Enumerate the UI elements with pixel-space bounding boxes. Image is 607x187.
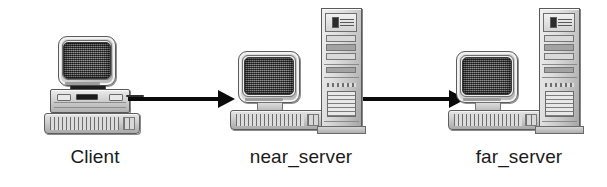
arrow-client-to-near-server: [128, 90, 236, 108]
far-server-monitor-chin: [463, 98, 500, 101]
client-keyboard: [44, 113, 140, 134]
node-far-server[interactable]: far_server: [446, 0, 592, 187]
far-server-tower-vents: [545, 83, 574, 87]
near-server-monitor-screen: [244, 57, 295, 95]
client-monitor: [58, 36, 116, 86]
far-server-tower-grille: [545, 91, 574, 117]
client-monitor-screen: [63, 42, 111, 79]
far-server-power-led: [550, 17, 557, 28]
near-server-keyboard-keys: [236, 114, 304, 127]
near-server-tower-vents: [327, 83, 356, 87]
far-server-keyboard-keys: [454, 114, 522, 127]
far-server-tower-case: [539, 8, 580, 128]
near-server-tower-divider-3: [324, 121, 359, 122]
client-case-seam-upper: [54, 102, 126, 103]
far-server-tower-divider-3: [542, 121, 577, 122]
far-server-bay-3: [544, 53, 574, 60]
near-server-tower-top-label: [340, 17, 354, 26]
near-server-tower-base: [317, 126, 366, 134]
near-server-tower-divider-1: [324, 64, 359, 65]
far-server-tower-base: [535, 126, 584, 134]
near-server-bay-4: [326, 67, 356, 73]
far-server-bay-1: [544, 35, 574, 42]
client-keyboard-numpad: [123, 117, 135, 130]
client-desktop-case: [50, 89, 130, 113]
arrow-shaft-2: [363, 97, 451, 101]
far-server-monitor-screen: [462, 57, 513, 95]
far-server-keyboard: [448, 110, 542, 130]
far-server-bay-4: [544, 67, 574, 73]
client-case-drive-slot: [109, 94, 123, 101]
label-client: Client: [22, 146, 168, 168]
far-server-tower-divider-2: [542, 77, 577, 78]
near-server-bay-2: [326, 44, 356, 51]
near-server-bay-3: [326, 53, 356, 60]
client-case-power-slot: [57, 94, 71, 101]
near-server-tower-divider-2: [324, 77, 359, 78]
near-server-tower-grille: [327, 91, 356, 117]
near-server-monitor-chin: [245, 98, 282, 101]
near-server-keyboard: [230, 110, 324, 130]
far-server-monitor: [456, 51, 518, 103]
client-case-seam-lower: [54, 107, 126, 108]
near-server-power-led: [332, 17, 339, 28]
near-server-keyboard-numpad: [307, 114, 319, 126]
client-keyboard-keys: [50, 117, 120, 130]
near-server-monitor: [238, 51, 300, 103]
label-near-server: near_server: [228, 146, 374, 168]
far-server-tower-divider-1: [542, 64, 577, 65]
far-server-keyboard-numpad: [525, 114, 537, 126]
label-far-server: far_server: [446, 146, 592, 168]
far-server-bay-2: [544, 44, 574, 51]
near-server-tower-case: [321, 8, 362, 128]
far-server-tower-top-label: [558, 17, 572, 26]
client-case-floppy-slot: [76, 94, 98, 100]
node-near-server[interactable]: near_server: [228, 0, 374, 187]
near-server-bay-1: [326, 35, 356, 42]
diagram-canvas: Client: [0, 0, 607, 187]
arrow-shaft-1: [128, 97, 220, 101]
